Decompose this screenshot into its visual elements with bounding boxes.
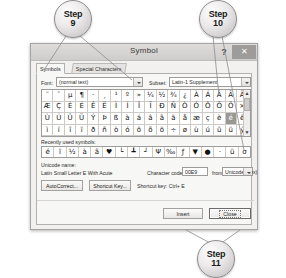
leader-lines	[0, 0, 286, 278]
callout-step-9-number: 9	[70, 19, 75, 28]
callout-step-9: Step 9	[54, 0, 92, 38]
callout-step-11: Step 11	[197, 240, 235, 278]
screenshot-root: Symbol ? ✕ Symbols Special Characters Fo…	[0, 0, 286, 278]
callout-step-11-number: 11	[211, 259, 221, 268]
callout-step-10: Step 10	[199, 0, 237, 38]
callout-step-10-number: 10	[213, 19, 223, 28]
